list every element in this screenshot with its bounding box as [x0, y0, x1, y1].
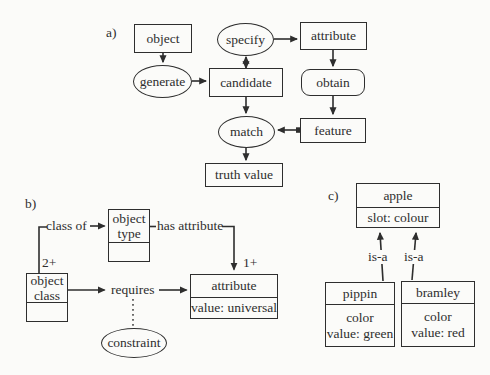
- attribute-b-title: attribute: [191, 275, 277, 298]
- node-feature: feature: [300, 118, 366, 143]
- apple-slot: slot: colour: [357, 208, 439, 227]
- object-class-title: object class: [27, 274, 67, 303]
- node-specify: specify: [217, 23, 274, 56]
- node-apple: apple slot: colour: [356, 183, 440, 228]
- section-label-a: a): [106, 25, 117, 41]
- node-object-type: object type: [108, 209, 150, 262]
- edge-label-isa-left: is-a: [365, 250, 391, 264]
- figure-diagram: a) object specify attribute generate can…: [0, 0, 490, 375]
- pippin-title: pippin: [326, 283, 394, 305]
- node-bramley: bramley color value: red: [401, 281, 475, 347]
- edge-label-has-attribute: has attribute: [157, 219, 223, 233]
- edge-label-class-of: class of: [46, 219, 87, 233]
- object-class-empty-compartment: [27, 303, 67, 321]
- node-match: match: [218, 116, 275, 148]
- section-label-c: c): [328, 188, 339, 204]
- bramley-slot: color value: red: [402, 304, 474, 346]
- object-type-empty-compartment: [109, 243, 149, 261]
- multiplicity-2plus: 2+: [42, 256, 56, 270]
- node-candidate: candidate: [209, 68, 283, 97]
- node-obtain: obtain: [301, 69, 365, 96]
- node-attribute: attribute: [300, 22, 367, 50]
- bramley-title: bramley: [402, 282, 474, 304]
- node-attribute-b: attribute value: universal: [190, 274, 278, 319]
- node-object-class: object class: [26, 273, 68, 322]
- edge-label-requires: requires: [111, 283, 154, 297]
- edge-label-isa-right: is-a: [401, 250, 427, 264]
- edge-hasattribute-attribute: [222, 227, 234, 270]
- node-constraint: constraint: [101, 328, 167, 358]
- node-generate: generate: [133, 65, 192, 98]
- object-type-title: object type: [109, 210, 149, 243]
- pippin-slot: color value: green: [326, 305, 394, 346]
- attribute-b-value: value: universal: [191, 298, 277, 318]
- apple-title: apple: [357, 184, 439, 208]
- section-label-b: b): [25, 196, 36, 212]
- multiplicity-1plus: 1+: [243, 256, 257, 270]
- node-truth-value: truth value: [205, 163, 283, 187]
- node-pippin: pippin color value: green: [325, 282, 395, 347]
- node-object: object: [134, 24, 192, 53]
